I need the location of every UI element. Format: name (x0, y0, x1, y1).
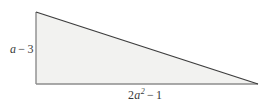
height-label-constant: 3 (27, 42, 33, 56)
base-label-constant: 1 (156, 88, 162, 102)
base-label: 2a2−1 (128, 89, 162, 101)
height-label-operator: − (16, 42, 27, 56)
height-label: a−3 (10, 43, 34, 55)
right-triangle-figure: a−3 2a2−1 (0, 0, 265, 112)
base-label-operator: − (145, 88, 156, 102)
